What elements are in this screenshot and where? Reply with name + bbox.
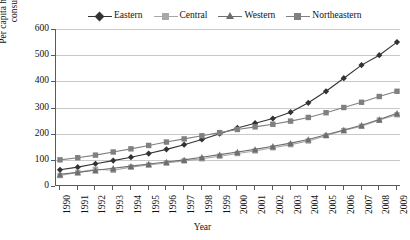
data-point bbox=[181, 136, 186, 141]
y-tick-label: 500 bbox=[23, 50, 49, 60]
legend-item-central[interactable]: Central bbox=[154, 11, 208, 21]
data-point bbox=[163, 146, 169, 152]
legend-label: Eastern bbox=[114, 11, 143, 21]
data-point bbox=[111, 149, 116, 154]
x-tick-label: 1993 bbox=[116, 195, 126, 214]
y-tick-mark bbox=[51, 134, 55, 135]
series-lines bbox=[56, 29, 401, 186]
legend-item-western[interactable]: Western bbox=[218, 11, 275, 21]
y-tick-label: 100 bbox=[23, 155, 49, 165]
x-tick-label: 1996 bbox=[169, 195, 179, 214]
x-tick-mark bbox=[148, 186, 149, 190]
data-point bbox=[57, 157, 62, 162]
legend-marker-square-icon bbox=[154, 12, 178, 21]
x-tick-mark bbox=[94, 186, 95, 190]
data-point bbox=[128, 146, 133, 151]
x-tick-mark bbox=[201, 186, 202, 190]
x-tick-mark bbox=[77, 186, 78, 190]
x-tick-label: 2008 bbox=[382, 195, 392, 214]
x-tick-label: 1999 bbox=[223, 195, 233, 214]
x-tick-mark bbox=[307, 186, 308, 190]
y-tick-label: 300 bbox=[23, 103, 49, 113]
x-tick-mark bbox=[236, 186, 237, 190]
x-tick-label: 2003 bbox=[294, 195, 304, 214]
legend-marker-diamond-icon bbox=[88, 12, 112, 21]
data-point bbox=[270, 115, 276, 121]
x-tick-label: 2000 bbox=[240, 195, 250, 214]
x-tick-mark bbox=[378, 186, 379, 190]
legend-item-eastern[interactable]: Eastern bbox=[88, 11, 143, 21]
data-point bbox=[146, 143, 151, 148]
x-tick-label: 1992 bbox=[98, 195, 108, 214]
x-tick-mark bbox=[272, 186, 273, 190]
x-tick-mark bbox=[219, 186, 220, 190]
legend-label: Central bbox=[180, 11, 208, 21]
y-tick-mark bbox=[51, 186, 55, 187]
data-point bbox=[235, 127, 240, 132]
series-western bbox=[57, 110, 400, 177]
plot-area bbox=[55, 29, 400, 186]
data-point bbox=[128, 154, 134, 160]
x-tick-mark bbox=[254, 186, 255, 190]
x-tick-label: 2002 bbox=[276, 195, 286, 214]
data-point bbox=[164, 139, 169, 144]
data-point bbox=[287, 109, 293, 115]
x-tick-mark bbox=[396, 186, 397, 190]
chart-legend: EasternCentralWesternNortheastern bbox=[88, 8, 398, 24]
y-tick-label: 200 bbox=[23, 129, 49, 139]
x-tick-label: 1991 bbox=[81, 195, 91, 214]
x-tick-mark bbox=[130, 186, 131, 190]
data-point bbox=[110, 158, 116, 164]
y-tick-label: 0 bbox=[23, 181, 49, 191]
data-point bbox=[181, 142, 187, 148]
data-point bbox=[306, 115, 311, 120]
data-point bbox=[75, 155, 80, 160]
data-point bbox=[92, 161, 98, 167]
y-tick-label: 600 bbox=[23, 24, 49, 34]
y-tick-mark bbox=[51, 81, 55, 82]
data-point bbox=[359, 100, 364, 105]
x-tick-mark bbox=[59, 186, 60, 190]
data-point bbox=[323, 110, 328, 115]
x-tick-label: 2001 bbox=[258, 195, 268, 214]
legend-label: Western bbox=[244, 11, 275, 21]
y-tick-mark bbox=[51, 29, 55, 30]
x-tick-mark bbox=[183, 186, 184, 190]
series-line bbox=[60, 115, 397, 176]
legend-item-northeastern[interactable]: Northeastern bbox=[286, 11, 361, 21]
x-tick-label: 1990 bbox=[63, 195, 73, 214]
x-axis-title: Year bbox=[0, 222, 405, 232]
x-tick-label: 2004 bbox=[311, 195, 321, 214]
x-tick-label: 2009 bbox=[400, 195, 410, 214]
x-tick-label: 1997 bbox=[187, 195, 197, 214]
x-tick-label: 2007 bbox=[365, 195, 375, 214]
y-tick-mark bbox=[51, 160, 55, 161]
data-point bbox=[93, 152, 98, 157]
y-tick-mark bbox=[51, 108, 55, 109]
x-tick-mark bbox=[290, 186, 291, 190]
series-line bbox=[60, 113, 397, 174]
y-axis-title: Per capita household electricity consump… bbox=[0, 0, 20, 44]
data-point bbox=[270, 122, 275, 127]
legend-marker-triangle-icon bbox=[218, 12, 242, 21]
x-tick-label: 1998 bbox=[205, 195, 215, 214]
data-point bbox=[146, 150, 152, 156]
data-point bbox=[217, 130, 222, 135]
x-tick-mark bbox=[343, 186, 344, 190]
x-tick-label: 1994 bbox=[134, 195, 144, 214]
x-tick-mark bbox=[361, 186, 362, 190]
x-tick-label: 2005 bbox=[329, 195, 339, 214]
y-tick-label: 400 bbox=[23, 76, 49, 86]
x-tick-mark bbox=[165, 186, 166, 190]
series-northeastern bbox=[57, 89, 399, 163]
legend-marker-square-icon bbox=[286, 12, 310, 21]
data-point bbox=[394, 89, 399, 94]
legend-label: Northeastern bbox=[312, 11, 361, 21]
x-tick-label: 1995 bbox=[152, 195, 162, 214]
data-point bbox=[199, 133, 204, 138]
data-point bbox=[288, 118, 293, 123]
y-tick-mark bbox=[51, 55, 55, 56]
x-tick-mark bbox=[112, 186, 113, 190]
data-point bbox=[252, 124, 257, 129]
